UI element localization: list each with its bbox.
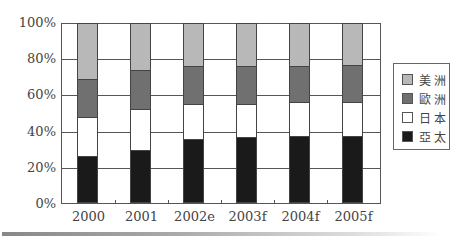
bar-segment bbox=[183, 104, 204, 141]
legend-swatch bbox=[402, 74, 413, 85]
x-tick-label: 2002e bbox=[168, 209, 222, 224]
legend-label: 歐洲 bbox=[419, 90, 449, 107]
bar-segment bbox=[342, 65, 363, 103]
gridline bbox=[62, 132, 380, 133]
legend-item: 美洲 bbox=[402, 71, 449, 87]
legend-item: 日本 bbox=[402, 109, 449, 125]
gridline bbox=[62, 59, 380, 60]
legend-label: 亞太 bbox=[419, 128, 449, 145]
bar-segment bbox=[342, 136, 363, 203]
bar-segment bbox=[342, 23, 363, 66]
bar-segment bbox=[236, 104, 257, 138]
bar-segment bbox=[183, 139, 204, 203]
y-tick-label: 0% bbox=[0, 197, 56, 211]
x-tick-label: 2005f bbox=[327, 209, 381, 224]
x-tick-label: 2003f bbox=[221, 209, 275, 224]
legend-label: 美洲 bbox=[419, 71, 449, 88]
bar-segment bbox=[289, 66, 310, 103]
bar-2003f bbox=[236, 24, 257, 203]
bar-segment bbox=[130, 70, 151, 110]
legend-swatch bbox=[402, 112, 413, 123]
x-tick-mark bbox=[274, 200, 275, 204]
bar-segment bbox=[183, 23, 204, 67]
x-tick-label: 2000 bbox=[62, 209, 116, 224]
x-tick-label: 2004f bbox=[274, 209, 328, 224]
stacked-bar-chart: 0%20%40%60%80%100% 200020012002e2003f200… bbox=[0, 0, 464, 243]
bar-2000 bbox=[77, 24, 98, 203]
x-tick-mark bbox=[221, 200, 222, 204]
x-tick-mark bbox=[327, 200, 328, 204]
bar-segment bbox=[130, 109, 151, 151]
decorative-divider bbox=[2, 232, 442, 236]
bar-segment bbox=[183, 66, 204, 105]
bar-2002e bbox=[183, 24, 204, 203]
bar-segment bbox=[289, 102, 310, 137]
bar-2001 bbox=[130, 24, 151, 203]
bar-segment bbox=[77, 79, 98, 118]
gridline bbox=[62, 168, 380, 169]
legend-label: 日本 bbox=[419, 109, 449, 126]
legend-swatch bbox=[402, 93, 413, 104]
bar-segment bbox=[236, 23, 257, 67]
legend-swatch bbox=[402, 131, 413, 142]
y-tick-label: 100% bbox=[0, 16, 56, 30]
bar-segment bbox=[130, 150, 151, 203]
bar-2004f bbox=[289, 24, 310, 203]
legend: 美洲歐洲日本亞太 bbox=[393, 63, 450, 150]
bar-segment bbox=[289, 23, 310, 67]
y-tick-label: 80% bbox=[0, 52, 56, 66]
x-tick-label: 2001 bbox=[115, 209, 169, 224]
plot-area bbox=[61, 23, 381, 204]
bar-segment bbox=[236, 66, 257, 105]
bar-2005f bbox=[342, 24, 363, 203]
legend-item: 亞太 bbox=[402, 128, 449, 144]
y-tick-label: 60% bbox=[0, 88, 56, 102]
bar-segment bbox=[130, 23, 151, 71]
y-tick-label: 20% bbox=[0, 161, 56, 175]
y-tick-label: 40% bbox=[0, 125, 56, 139]
gridline bbox=[62, 95, 380, 96]
x-tick-mark bbox=[168, 200, 169, 204]
legend-item: 歐洲 bbox=[402, 90, 449, 106]
bar-segment bbox=[77, 117, 98, 157]
bar-segment bbox=[289, 136, 310, 203]
bar-segment bbox=[77, 156, 98, 203]
bar-segment bbox=[342, 102, 363, 137]
bar-segment bbox=[77, 23, 98, 79]
bar-segment bbox=[236, 137, 257, 203]
x-tick-mark bbox=[115, 200, 116, 204]
